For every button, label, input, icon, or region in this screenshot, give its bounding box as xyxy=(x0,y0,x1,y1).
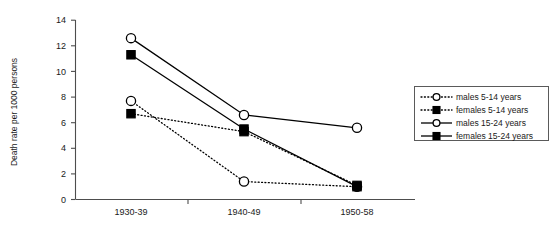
filled-square-icon xyxy=(433,133,440,140)
data-point-open-circle xyxy=(239,110,248,119)
legend-entry-males-5-14[interactable]: males 5-14 years xyxy=(421,92,521,102)
y-axis-label: Death rate per 1000 persons xyxy=(9,58,19,166)
open-circle-icon xyxy=(433,94,440,101)
data-point-open-circle xyxy=(352,123,361,132)
data-point-open-circle xyxy=(126,96,135,105)
legend-label-males-15-24: males 15-24 years xyxy=(456,118,526,128)
legend-entry-females-5-14[interactable]: females 5-14 years xyxy=(421,105,528,115)
data-point-filled-square xyxy=(240,125,248,133)
y-tick-label-8: 8 xyxy=(61,92,66,102)
legend-entry-females-15-24[interactable]: females 15-24 years xyxy=(421,131,533,141)
legend-label-females-15-24: females 15-24 years xyxy=(456,131,533,141)
y-tick-label-2: 2 xyxy=(61,169,66,179)
filled-square-icon xyxy=(433,107,440,114)
y-tick-label-14: 14 xyxy=(56,15,66,25)
legend: males 5-14 years females 5-14 years male… xyxy=(415,87,549,142)
data-point-filled-square xyxy=(353,182,361,190)
data-point-open-circle xyxy=(126,34,135,43)
legend-label-females-5-14: females 5-14 years xyxy=(456,105,528,115)
data-point-filled-square xyxy=(127,51,135,59)
data-point-filled-square xyxy=(127,109,135,117)
y-tick-label-10: 10 xyxy=(56,67,66,77)
open-circle-icon xyxy=(433,120,440,127)
y-tick-label-4: 4 xyxy=(61,143,66,153)
y-tick-label-12: 12 xyxy=(56,41,66,51)
y-tick-label-0: 0 xyxy=(61,195,66,205)
x-tick-label-1950-58: 1950-58 xyxy=(340,207,373,217)
legend-label-males-5-14: males 5-14 years xyxy=(456,92,521,102)
x-tick-label-1930-39: 1930-39 xyxy=(114,207,147,217)
data-point-open-circle xyxy=(239,177,248,186)
legend-entry-males-15-24[interactable]: males 15-24 years xyxy=(421,118,526,128)
y-tick-label-6: 6 xyxy=(61,118,66,128)
x-tick-label-1940-49: 1940-49 xyxy=(227,207,260,217)
line-chart: Death rate per 1000 persons 0 2 4 6 8 10… xyxy=(0,0,554,234)
